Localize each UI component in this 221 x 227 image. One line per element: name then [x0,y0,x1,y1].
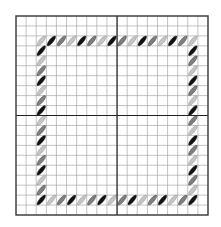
stitch-mid [147,194,158,206]
stitch-light [36,85,47,97]
stitch-dark [36,75,47,87]
stitch-mid [36,184,47,196]
stitch-dark [36,164,47,176]
stitch-dark [96,194,107,206]
stitch-dark [137,35,148,47]
stitch-light [157,35,168,47]
stitch-mid [177,35,188,47]
stitch-mid [56,35,67,47]
stitch-light [167,194,178,206]
stitch-dark [36,45,47,57]
stitch-light [96,35,107,47]
stitch-light [36,114,47,126]
stitch-mid [86,194,97,206]
stitch-light [127,35,138,47]
stitch-mid [187,114,198,126]
stitch-light [36,55,47,67]
stitch-mid [36,65,47,77]
stitch-mid [187,55,198,67]
stitch-light [36,174,47,186]
stitch-mid [36,124,47,136]
stitch-light [46,194,57,206]
stitch-mid [187,85,198,97]
stitch-dark [187,164,198,176]
stitch-light [36,144,47,156]
stitch-dark [66,194,77,206]
stitch-dark [106,35,117,47]
stitch-dark [127,194,138,206]
stitch-light [76,194,87,206]
stitch-mid [177,194,188,206]
stitch-mid [36,94,47,106]
stitch-dark [187,75,198,87]
stitch-light [137,194,148,206]
stitch-light [66,35,77,47]
stitch-light [187,35,198,47]
stitch-dark [36,104,47,116]
stitch-light [187,184,198,196]
stitch-mid [147,35,158,47]
stitch-mid [56,194,67,206]
stitch-dark [187,45,198,57]
stitch-dark [167,35,178,47]
stitch-light [36,35,47,47]
stitch-mid [187,174,198,186]
stitch-dark [187,194,198,206]
stitch-chart [0,0,221,227]
stitch-dark [36,134,47,146]
stitch-light [187,94,198,106]
stitch-dark [46,35,57,47]
stitch-dark [157,194,168,206]
stitch-mid [117,35,128,47]
stitch-dark [187,134,198,146]
stitch-mid [187,144,198,156]
stitch-light [187,124,198,136]
stitch-mid [117,194,128,206]
stitch-dark [187,104,198,116]
stitch-light [106,194,117,206]
stitch-light [187,65,198,77]
stitch-mid [36,154,47,166]
stitch-mid [86,35,97,47]
stitch-light [187,154,198,166]
stitch-dark [36,194,47,206]
stitch-dark [76,35,87,47]
